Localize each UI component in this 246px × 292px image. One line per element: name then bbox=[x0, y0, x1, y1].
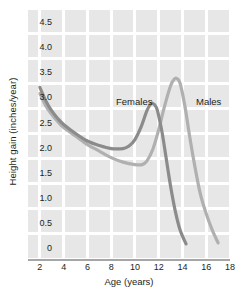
y-tick-label: 4.5 bbox=[28, 17, 52, 27]
x-tick-label: 12 bbox=[149, 262, 169, 272]
y-tick-label: 3.0 bbox=[28, 92, 52, 102]
x-tick-label: 8 bbox=[101, 262, 121, 272]
x-tick-label: 10 bbox=[125, 262, 145, 272]
series-label-males: Males bbox=[196, 96, 221, 107]
y-tick-label: 2.5 bbox=[28, 118, 52, 128]
x-tick-label: 18 bbox=[220, 262, 240, 272]
plot-area: 00.51.01.52.02.53.03.54.04.55.0 bbox=[28, 8, 230, 259]
x-axis-title: Age (years) bbox=[28, 276, 230, 287]
y-tick-label: 3.5 bbox=[28, 67, 52, 77]
x-axis-line bbox=[28, 259, 230, 261]
y-axis-title-text: Height gain (inches/year) bbox=[8, 77, 19, 185]
series-curves bbox=[28, 8, 230, 259]
series-label-females: Females bbox=[116, 96, 152, 107]
x-tick-label: 2 bbox=[30, 262, 50, 272]
y-axis-title: Height gain (inches/year) bbox=[0, 0, 26, 262]
y-tick-label: 1.0 bbox=[28, 193, 52, 203]
x-tick-label: 14 bbox=[172, 262, 192, 272]
growth-velocity-chart: Height gain (inches/year) 00.51.01.52.02… bbox=[0, 0, 246, 292]
y-tick-label: 4.0 bbox=[28, 42, 52, 52]
x-tick-label: 16 bbox=[196, 262, 216, 272]
x-tick-label: 4 bbox=[54, 262, 74, 272]
y-tick-label: 1.5 bbox=[28, 168, 52, 178]
y-tick-label: 0.5 bbox=[28, 218, 52, 228]
y-tick-label: 0 bbox=[28, 243, 52, 253]
x-tick-label: 6 bbox=[77, 262, 97, 272]
y-tick-label: 2.0 bbox=[28, 143, 52, 153]
